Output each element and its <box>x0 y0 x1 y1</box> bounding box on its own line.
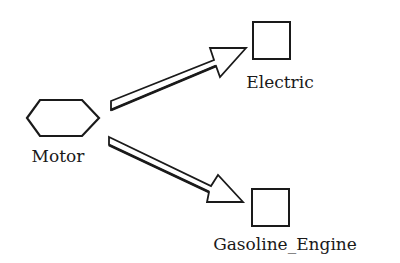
square-shape <box>253 22 290 59</box>
node-label-electric: Electric <box>246 72 313 92</box>
node-label-gasoline-engine: Gasoline_Engine <box>213 234 357 254</box>
arrow-motor-to-gasoline-engine <box>109 137 243 202</box>
arrow-motor-to-electric <box>111 48 246 110</box>
node-electric: Electric <box>246 22 313 92</box>
arrow-icon <box>109 137 243 202</box>
diagram-canvas: Motor Electric Gasoline_Engine <box>0 0 400 263</box>
node-motor: Motor <box>27 100 99 166</box>
hexagon-shape <box>27 100 99 136</box>
arrow-shadow <box>111 66 216 110</box>
node-label-motor: Motor <box>32 146 86 166</box>
arrow-shadow <box>109 145 209 192</box>
square-shape <box>252 189 289 226</box>
